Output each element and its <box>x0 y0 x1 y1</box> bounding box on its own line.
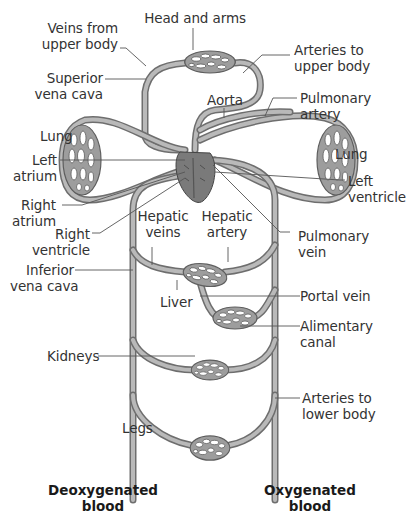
label-aorta: Aorta <box>207 92 243 108</box>
label-head-and-arms: Head and arms <box>140 10 250 26</box>
capillary-liver <box>181 260 228 289</box>
label-liver: Liver <box>160 294 193 310</box>
label-right-ventricle: Right ventricle <box>30 226 90 258</box>
label-kidneys: Kidneys <box>47 348 99 364</box>
label-veins-from-upper-body: Veins from upper body <box>40 20 118 52</box>
label-hepatic-artery: Hepatic artery <box>199 208 255 240</box>
label-right-atrium: Right atrium <box>10 197 56 229</box>
capillary-head-arms <box>185 51 236 73</box>
label-arteries-to-upper-body: Arteries to upper body <box>294 42 370 74</box>
label-lung-right: Lung <box>335 146 368 162</box>
legend-deoxygenated: Deoxygenated blood <box>38 482 168 514</box>
capillary-kidneys <box>191 360 228 380</box>
capillary-legs <box>190 436 230 460</box>
label-legs: Legs <box>122 420 153 436</box>
legend-oxygenated: Oxygenated blood <box>250 482 370 514</box>
label-pulmonary-vein: Pulmonary vein <box>298 228 369 260</box>
label-pulmonary-artery: Pulmonary artery <box>300 90 371 122</box>
label-lung-left: Lung <box>40 128 73 144</box>
label-left-atrium: Left atrium <box>10 152 57 184</box>
label-arteries-to-lower-body: Arteries to lower body <box>302 390 376 422</box>
label-portal-vein: Portal vein <box>300 288 371 304</box>
label-inferior-vena-cava: Inferior vena cava <box>10 262 74 294</box>
label-superior-vena-cava: Superior vena cava <box>20 70 103 102</box>
label-hepatic-veins: Hepatic veins <box>135 208 191 240</box>
label-alimentary-canal: Alimentary canal <box>300 318 373 350</box>
label-left-ventricle: Left ventricle <box>348 173 406 205</box>
